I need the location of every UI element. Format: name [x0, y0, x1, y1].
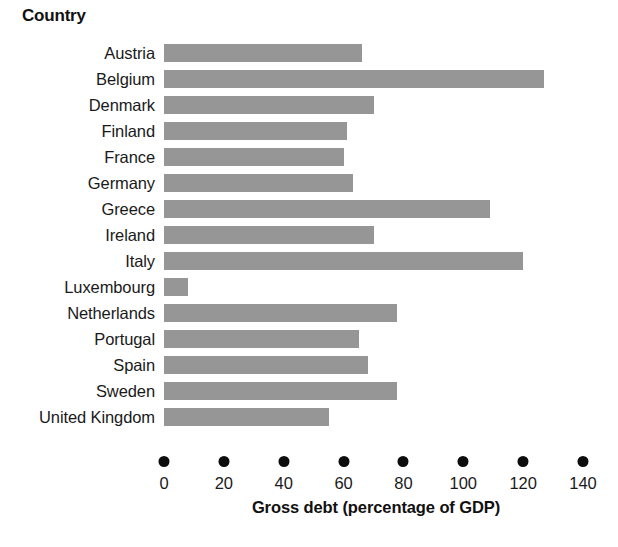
x-axis-tick-marker	[578, 456, 589, 467]
bar	[164, 330, 359, 348]
bar	[164, 356, 368, 374]
bar-row: Portugal	[0, 330, 618, 348]
category-label: Greece	[0, 200, 155, 218]
bar-row: Italy	[0, 252, 618, 270]
category-label: Ireland	[0, 226, 155, 244]
category-label: Spain	[0, 356, 155, 374]
category-label: Portugal	[0, 330, 155, 348]
x-axis-tick-label: 120	[509, 474, 537, 492]
x-axis-tick-marker	[458, 456, 469, 467]
x-axis-tick-marker	[398, 456, 409, 467]
category-label: Germany	[0, 174, 155, 192]
bar-row: Denmark	[0, 96, 618, 114]
bar	[164, 200, 490, 218]
x-axis-tick-label: 0	[159, 474, 168, 492]
bar	[164, 122, 347, 140]
bar	[164, 278, 188, 296]
category-label: Italy	[0, 252, 155, 270]
bar-row: Belgium	[0, 70, 618, 88]
x-axis-tick-marker	[159, 456, 170, 467]
x-axis-tick-label: 140	[569, 474, 597, 492]
bar-row: Ireland	[0, 226, 618, 244]
category-label: Belgium	[0, 70, 155, 88]
bar	[164, 44, 362, 62]
x-axis-tick-marker	[338, 456, 349, 467]
x-axis-label: Gross debt (percentage of GDP)	[164, 498, 588, 517]
bar-row: Germany	[0, 174, 618, 192]
category-label: Netherlands	[0, 304, 155, 322]
bar	[164, 148, 344, 166]
bar-chart: Country AustriaBelgiumDenmarkFinlandFran…	[0, 0, 618, 547]
x-axis-tick-label: 100	[450, 474, 478, 492]
bar	[164, 226, 374, 244]
x-axis-tick-marker	[218, 456, 229, 467]
bar	[164, 382, 397, 400]
category-label: Sweden	[0, 382, 155, 400]
category-label: France	[0, 148, 155, 166]
bar	[164, 408, 329, 426]
x-axis-tick-label: 80	[394, 474, 412, 492]
bar-row: Greece	[0, 200, 618, 218]
bar-row: United Kingdom	[0, 408, 618, 426]
category-label: Austria	[0, 44, 155, 62]
bar-row: Spain	[0, 356, 618, 374]
bar-row: Austria	[0, 44, 618, 62]
x-axis-tick-label: 40	[275, 474, 293, 492]
bar-row: Sweden	[0, 382, 618, 400]
bar	[164, 174, 353, 192]
category-label: United Kingdom	[0, 408, 155, 426]
bar	[164, 304, 397, 322]
bar-row: Finland	[0, 122, 618, 140]
x-axis-tick-marker	[518, 456, 529, 467]
bar-row: France	[0, 148, 618, 166]
bar	[164, 96, 374, 114]
bar-row: Luxembourg	[0, 278, 618, 296]
x-axis-tick-marker	[278, 456, 289, 467]
x-axis-tick-label: 60	[334, 474, 352, 492]
bar	[164, 70, 544, 88]
bar-row: Netherlands	[0, 304, 618, 322]
x-axis-tick-label: 20	[215, 474, 233, 492]
bar	[164, 252, 523, 270]
category-label: Denmark	[0, 96, 155, 114]
category-label: Luxembourg	[0, 278, 155, 296]
category-label: Finland	[0, 122, 155, 140]
